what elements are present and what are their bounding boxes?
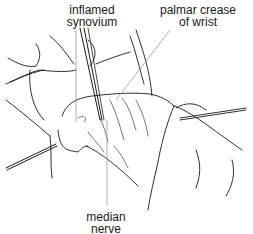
label-line: nerve (66, 223, 146, 234)
label-line: synovium (52, 16, 132, 28)
label-line: of wrist (143, 16, 253, 28)
line-drawing (0, 0, 253, 234)
label-inflamed-synovium: inflamed synovium (52, 4, 132, 28)
surgical-illustration: inflamed synovium palmar crease of wrist… (0, 0, 253, 234)
label-median-nerve: median nerve (66, 211, 146, 234)
label-palmar-crease-of-wrist: palmar crease of wrist (143, 4, 253, 28)
